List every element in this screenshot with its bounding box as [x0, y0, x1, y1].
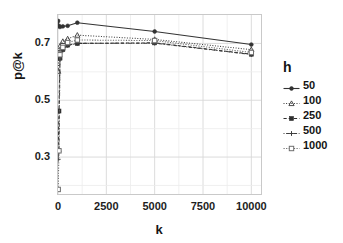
- legend-key-icon: [283, 110, 300, 121]
- legend-key-icon: [283, 95, 300, 106]
- series-line: [58, 41, 254, 162]
- legend-label: 100: [303, 95, 321, 106]
- legend-item[interactable]: 1000: [283, 138, 343, 153]
- y-tick-label: 0.5: [16, 93, 50, 105]
- y-tick-label: 0.3: [16, 150, 50, 162]
- legend-item[interactable]: 50: [283, 78, 343, 93]
- legend: h 501002505001000: [283, 60, 343, 153]
- series-line: [58, 38, 254, 192]
- legend-item[interactable]: 250: [283, 108, 343, 123]
- y-axis-title: p@k: [10, 52, 25, 80]
- series-line: [58, 41, 253, 153]
- plot-lines: [58, 15, 261, 194]
- legend-label: 500: [303, 125, 321, 136]
- plot-panel: [57, 14, 262, 195]
- legend-item[interactable]: 100: [283, 93, 343, 108]
- y-tick-label: 0.7: [16, 36, 50, 48]
- legend-title: h: [283, 60, 343, 74]
- chart-container: p@k k 0.30.50.7 025005000750010000 h 501…: [0, 0, 343, 243]
- legend-items: 501002505001000: [283, 78, 343, 153]
- legend-label: 250: [303, 110, 321, 121]
- legend-key-icon: [283, 140, 300, 151]
- legend-key-icon: [283, 125, 300, 136]
- legend-key-icon: [283, 80, 300, 91]
- legend-item[interactable]: 500: [283, 123, 343, 138]
- x-tick-label: 10000: [221, 200, 281, 212]
- x-axis-title: k: [0, 222, 318, 237]
- legend-label: 50: [303, 80, 315, 91]
- legend-label: 1000: [303, 140, 327, 151]
